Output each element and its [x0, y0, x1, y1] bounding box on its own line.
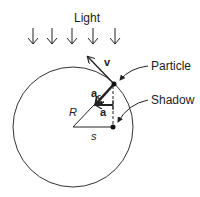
shadow-pointer [118, 100, 148, 122]
particle-pointer [120, 66, 148, 80]
particle-label: Particle [151, 59, 191, 73]
displacement-label: s [91, 130, 97, 142]
circular-motion-diagram: Light v ac a R s Particle Shadow [0, 0, 200, 197]
light-arrow-icon [47, 28, 57, 44]
centripetal-accel-label: ac [91, 87, 101, 100]
velocity-label: v [104, 56, 111, 68]
particle-dot [112, 82, 117, 87]
light-arrows [28, 28, 120, 44]
light-arrow-icon [28, 28, 38, 44]
accel-label: a [100, 106, 107, 118]
shadow-dot [111, 125, 116, 130]
shadow-label: Shadow [151, 93, 195, 107]
radius-label: R [69, 106, 77, 118]
light-arrow-icon [88, 28, 98, 44]
light-arrow-icon [110, 28, 120, 44]
light-label: Light [74, 11, 101, 25]
light-arrow-icon [67, 28, 77, 44]
